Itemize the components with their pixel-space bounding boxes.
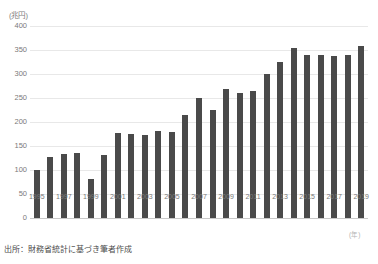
y-tick-label: 300 [1,70,27,78]
bar-slot [165,26,179,218]
bar-slot [111,26,125,218]
y-tick-label: 0 [1,214,27,222]
bar [61,154,67,218]
y-tick-label: 400 [1,22,27,30]
bar [210,110,216,218]
bar-slot [192,26,206,218]
bar-slot [273,26,287,218]
bar [142,135,148,218]
y-tick-label: 100 [1,166,27,174]
chart-title [0,0,378,9]
bar-slot [71,26,85,218]
y-tick-label: 200 [1,118,27,126]
bar [47,157,53,218]
bar-slot [206,26,220,218]
x-tick-label: 2013 [267,193,293,201]
x-tick-label: 2001 [105,193,131,201]
x-tick-label: 2003 [132,193,158,201]
bar [101,155,107,218]
bar-slot [57,26,71,218]
x-tick-label: 1997 [51,193,77,201]
bar [182,115,188,218]
bar [74,153,80,218]
bar [128,134,134,218]
bar-slot [219,26,233,218]
bar-slot [233,26,247,218]
x-tick-label: 2007 [186,193,212,201]
bar-slot [138,26,152,218]
bar [169,132,175,218]
source-note: 出所：財務省統計に基づき筆者作成 [4,245,132,255]
bar [155,131,161,218]
x-tick-label: 2019 [348,193,374,201]
y-tick-label: 350 [1,46,27,54]
plot-area: 050100150200250300350400 [30,26,368,218]
x-tick-label: 1999 [78,193,104,201]
bar-slot [179,26,193,218]
chart-figure: (兆円) 050100150200250300350400 1995199719… [0,0,378,264]
bar-slot [246,26,260,218]
x-tick-label: 1995 [24,193,50,201]
x-tick-label: 2009 [213,193,239,201]
bar-slot [341,26,355,218]
x-axis-unit-label: (年) [349,231,360,239]
bar-slot [314,26,328,218]
bar [115,133,121,218]
bar-series [30,26,368,218]
x-tick-label: 2015 [294,193,320,201]
bar-slot [98,26,112,218]
bar-slot [152,26,166,218]
y-tick-label: 250 [1,94,27,102]
bar-slot [44,26,58,218]
x-tick-label: 2005 [159,193,185,201]
y-tick-label: 150 [1,142,27,150]
bar-slot [125,26,139,218]
bar-slot [327,26,341,218]
x-tick-label: 2017 [321,193,347,201]
gridline-0: 0 [30,218,368,219]
bar-slot [300,26,314,218]
bar-slot [260,26,274,218]
bar-slot [287,26,301,218]
bar-slot [354,26,368,218]
bar-slot [84,26,98,218]
bar-slot [30,26,44,218]
x-tick-label: 2011 [240,193,266,201]
y-axis-unit-label: (兆円) [9,11,28,20]
